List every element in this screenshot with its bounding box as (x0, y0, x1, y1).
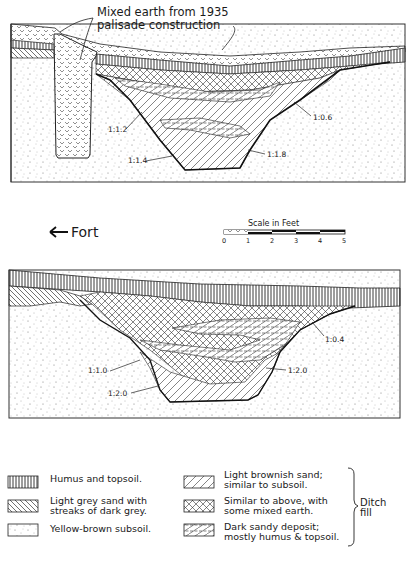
legend-text: Yellow-brown subsoil. (50, 524, 151, 534)
annotation-line-2: palisade construction (97, 18, 220, 32)
legend-item-dark-sandy: Dark sandy deposit; mostly humus & topso… (224, 522, 339, 541)
legend-text: mostly humus & topsoil. (224, 532, 339, 542)
bottom-section-profile (9, 270, 400, 418)
swatch-mixed-earth (184, 500, 214, 512)
scale-bar: Scale in Feet 0 1 2 3 4 5 (222, 219, 346, 245)
swatch-humus (8, 476, 38, 488)
swatch-brownish-sand (184, 476, 214, 488)
slope-label: 1:1.4 (128, 156, 147, 165)
legend-item-humus: Humus and topsoil. (50, 474, 142, 484)
slope-label: 1:1.8 (267, 150, 286, 159)
ditch-fill-label: Ditch fill (360, 498, 386, 518)
legend-text: similar to subsoil. (224, 480, 308, 490)
legend-text: some mixed earth. (224, 506, 313, 516)
legend-item-mixed-earth: Similar to above, with some mixed earth. (224, 496, 328, 515)
slope-label: 1:0.6 (313, 113, 332, 122)
slope-label: 1:0.4 (325, 335, 344, 344)
left-arrow-icon (50, 227, 68, 237)
slope-label: 1:2.0 (108, 389, 127, 398)
scale-tick: 4 (318, 237, 322, 245)
swatch-dark-sandy (184, 524, 214, 536)
slope-label: 1:2.0 (288, 366, 307, 375)
legend-text: Humus and topsoil. (50, 474, 142, 484)
swatch-subsoil (8, 524, 38, 536)
scale-tick: 0 (222, 237, 226, 245)
slope-label: 1:1.0 (88, 366, 107, 375)
ditch-fill-line: fill (360, 508, 386, 518)
scale-tick: 2 (270, 237, 274, 245)
scale-tick: 5 (342, 237, 346, 245)
legend-item-subsoil: Yellow-brown subsoil. (50, 524, 151, 534)
fort-direction: Fort (50, 224, 99, 240)
brace-icon (348, 468, 358, 546)
scale-title: Scale in Feet (248, 219, 299, 228)
fort-label: Fort (71, 224, 99, 240)
scale-tick: 1 (246, 237, 250, 245)
scale-tick: 3 (294, 237, 298, 245)
swatch-grey-sand (8, 500, 38, 512)
top-section-profile (11, 24, 405, 182)
legend-item-brownish-sand: Light brownish sand; similar to subsoil. (224, 470, 323, 489)
legend-text: streaks of dark grey. (50, 506, 147, 516)
slope-label: 1:1.2 (108, 125, 127, 134)
annotation-line-1: Mixed earth from 1935 (97, 5, 229, 19)
legend-item-grey-sand: Light grey sand with streaks of dark gre… (50, 496, 147, 515)
